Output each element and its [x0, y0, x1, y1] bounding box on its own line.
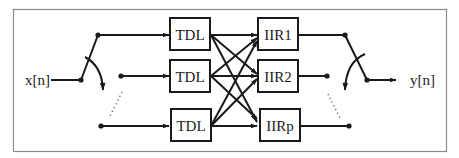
iir-block-2: IIR2 [258, 60, 298, 92]
iir-block-1-label: IIR1 [264, 27, 292, 43]
output-switch-contact-2 [324, 73, 329, 78]
tdl-block-1: TDL [170, 18, 210, 50]
tdl-block-1-label: TDL [175, 27, 204, 43]
tdl-block-3: TDL [171, 109, 211, 141]
iir-block-p-label: IIRp [266, 118, 294, 134]
output-switch-contact-p [346, 123, 351, 128]
tdl-block-2-label: TDL [175, 69, 204, 85]
iir-block-1: IIR1 [258, 18, 298, 50]
tdl-block-2: TDL [170, 60, 210, 92]
iir-block-2-label: IIR2 [264, 69, 292, 85]
input-label: x[n] [25, 72, 50, 88]
block-diagram: x[n] TDL TDL TDL II [0, 0, 459, 158]
iir-block-p: IIRp [260, 109, 300, 141]
output-label: y[n] [410, 72, 435, 88]
tdl-block-3-label: TDL [176, 118, 205, 134]
